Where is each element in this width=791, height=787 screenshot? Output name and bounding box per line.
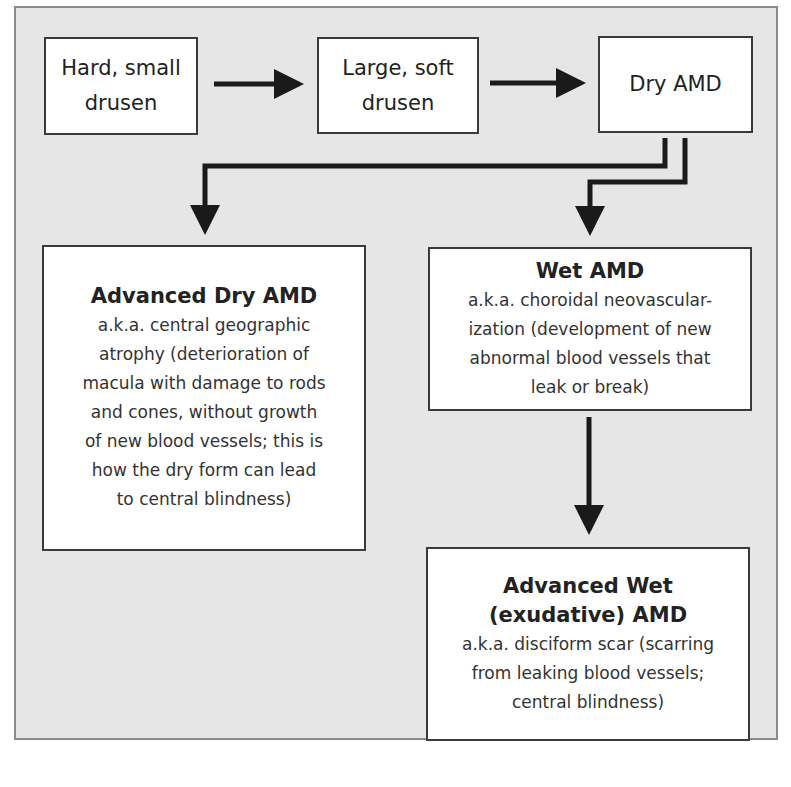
connector-layer	[0, 0, 791, 787]
arrow-dry-to-wet	[590, 138, 685, 231]
